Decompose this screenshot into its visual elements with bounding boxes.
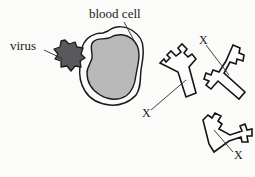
diagram-canvas: virus blood cell X X X bbox=[0, 0, 255, 177]
label-virus: virus bbox=[10, 38, 36, 53]
label-antibody-1: X bbox=[142, 106, 151, 120]
leader-line-antibody-1 bbox=[151, 80, 186, 110]
label-blood-cell: blood cell bbox=[89, 6, 141, 21]
virus-particle bbox=[54, 40, 85, 71]
leader-line-antibody-2 bbox=[206, 45, 229, 75]
blood-cell-cytoplasm bbox=[87, 35, 139, 100]
antibody-shape-2 bbox=[204, 45, 245, 99]
antibody-shape-1 bbox=[160, 44, 196, 97]
label-antibody-2: X bbox=[199, 33, 208, 47]
biology-diagram: virus blood cell X X X bbox=[0, 0, 255, 177]
label-antibody-3: X bbox=[234, 148, 243, 162]
